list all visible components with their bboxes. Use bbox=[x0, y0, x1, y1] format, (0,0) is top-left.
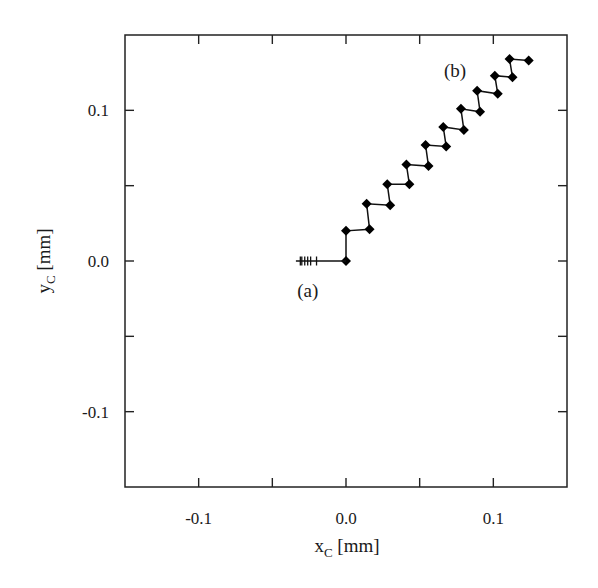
x-tick-label: 0.1 bbox=[483, 509, 504, 528]
y-tick-label: 0.1 bbox=[88, 101, 109, 120]
y-axis-tick-labels: 0.10.0-0.1 bbox=[82, 101, 109, 421]
x-axis-tick-labels: -0.10.00.1 bbox=[185, 509, 504, 528]
diamond-marker bbox=[472, 86, 482, 96]
diamond-marker bbox=[362, 199, 372, 209]
y-axis-label: yC [mm] bbox=[33, 228, 58, 293]
diamond-marker bbox=[505, 54, 515, 64]
diamond-marker bbox=[524, 56, 534, 66]
diamond-marker bbox=[459, 125, 469, 135]
diamond-marker bbox=[441, 141, 451, 151]
diamond-marker bbox=[421, 140, 431, 150]
annotation-label: (b) bbox=[444, 60, 466, 82]
annotations: (a)(b) bbox=[297, 60, 466, 302]
diamond-marker bbox=[404, 179, 414, 189]
diamond-marker bbox=[475, 107, 485, 117]
x-axis-label: xC [mm] bbox=[314, 535, 379, 560]
diamond-marker bbox=[507, 72, 517, 82]
diamond-marker bbox=[382, 179, 392, 189]
diamond-marker bbox=[401, 160, 411, 170]
annotation-label: (a) bbox=[297, 280, 318, 302]
diamond-marker bbox=[385, 200, 395, 210]
trajectory-line bbox=[346, 59, 529, 261]
x-tick-label: -0.1 bbox=[185, 509, 212, 528]
plot-area bbox=[296, 54, 534, 266]
diamond-marker bbox=[456, 104, 466, 114]
x-tick-label: 0.0 bbox=[335, 509, 356, 528]
diamond-marker bbox=[424, 161, 434, 171]
y-tick-label: 0.0 bbox=[88, 252, 109, 271]
diamond-marker bbox=[490, 71, 500, 81]
diamond-marker bbox=[365, 224, 375, 234]
diamond-marker bbox=[438, 122, 448, 132]
y-tick-label: -0.1 bbox=[82, 403, 109, 422]
diamond-marker bbox=[493, 89, 503, 99]
diamond-marker bbox=[341, 226, 351, 236]
trajectory-chart: -0.10.00.1 0.10.0-0.1 (a)(b) xC [mm] yC … bbox=[0, 0, 598, 588]
